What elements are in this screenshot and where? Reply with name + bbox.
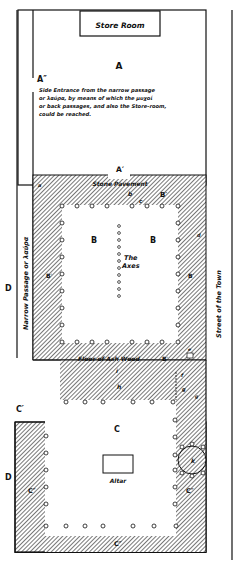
c-dprime-right-label: C″ — [186, 487, 194, 495]
the-axes-label-1: The — [124, 254, 138, 262]
letter-e: e — [188, 347, 191, 352]
c-label: C — [114, 425, 120, 434]
b-right-label: B — [150, 236, 156, 245]
stone-pavement-label: Stone Pavement — [92, 180, 148, 187]
b-prime-right-label: B′ — [188, 272, 195, 279]
store-room-label: Store Room — [95, 21, 144, 30]
letter-b: b — [128, 190, 133, 197]
side-entrance-line2: or λαύρα, by means of which the μυχοί — [39, 95, 153, 102]
b-prime-left-label: B′ — [46, 272, 53, 279]
c-prime-label: C′ — [16, 405, 24, 414]
letter-g1: g — [182, 386, 186, 393]
b-prime-top-label: B′ — [160, 191, 167, 199]
side-entrance-line1: Side Entrance from the narrow passage — [39, 87, 156, 94]
side-entrance-line4: could be reached. — [39, 111, 91, 117]
b-left-label: B — [91, 236, 97, 245]
floor-ash-wood-label: Floor of Ash Wood — [78, 355, 140, 362]
narrow-passage-label: Narrow Passage or λαύρα — [22, 236, 30, 330]
side-entrance-line3: or back passages, and also the Store-roo… — [39, 103, 167, 110]
a-prime-label: A′ — [116, 165, 124, 174]
letter-h: h — [117, 383, 121, 390]
letter-d: d — [197, 232, 201, 238]
letter-i: i — [116, 368, 118, 374]
d-lower-label: D — [5, 473, 12, 482]
c-dprime-left-label: C″ — [28, 487, 36, 495]
c-dprime-bottom-label: C″ — [114, 540, 122, 548]
altar — [103, 455, 133, 473]
room-a-dprime-label: A″ — [37, 75, 47, 84]
altar-label: Altar — [109, 477, 128, 484]
threshold-h — [60, 360, 206, 403]
the-axes-label-2: Axes — [121, 262, 140, 270]
room-a-label: A — [116, 61, 123, 71]
d-upper-label: D — [5, 284, 12, 293]
b-prime-bottom-label: B′ — [162, 355, 169, 362]
floor-plan: Store Room A A″ Side Entrance from the n… — [0, 0, 233, 565]
street-label: Street of the Town — [215, 270, 223, 338]
marker-e — [187, 353, 193, 358]
